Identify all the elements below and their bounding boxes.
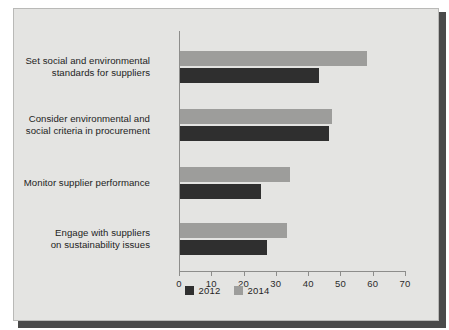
chart-legend: 20122014 bbox=[14, 285, 440, 296]
legend-swatch-icon bbox=[234, 286, 243, 295]
x-tick bbox=[179, 271, 180, 276]
legend-label: 2014 bbox=[248, 285, 270, 296]
plot-area: 010203040506070 bbox=[179, 31, 405, 271]
bar-2014 bbox=[180, 51, 367, 66]
category-label: Consider environmental and social criter… bbox=[26, 113, 150, 138]
x-tick bbox=[276, 271, 277, 276]
bar-2012 bbox=[180, 184, 261, 199]
legend-swatch-icon bbox=[185, 286, 194, 295]
x-tick bbox=[211, 271, 212, 276]
category-label: Monitor supplier performance bbox=[24, 177, 150, 190]
bar-2012 bbox=[180, 240, 267, 255]
bar-2012 bbox=[180, 68, 319, 83]
x-tick bbox=[373, 271, 374, 276]
chart-figure: 010203040506070 Set social and environme… bbox=[0, 0, 449, 330]
chart-panel: 010203040506070 Set social and environme… bbox=[13, 8, 439, 321]
x-tick bbox=[244, 271, 245, 276]
legend-item-2014[interactable]: 2014 bbox=[234, 285, 270, 296]
bar-2014 bbox=[180, 109, 332, 124]
bar-2012 bbox=[180, 126, 329, 141]
bar-2014 bbox=[180, 167, 290, 182]
x-tick bbox=[405, 271, 406, 276]
bar-2014 bbox=[180, 223, 287, 238]
legend-label: 2012 bbox=[199, 285, 221, 296]
category-label: Engage with suppliers on sustainability … bbox=[51, 227, 150, 252]
legend-item-2012[interactable]: 2012 bbox=[185, 285, 221, 296]
x-tick bbox=[308, 271, 309, 276]
category-label: Set social and environmental standards f… bbox=[25, 55, 150, 80]
x-tick bbox=[340, 271, 341, 276]
